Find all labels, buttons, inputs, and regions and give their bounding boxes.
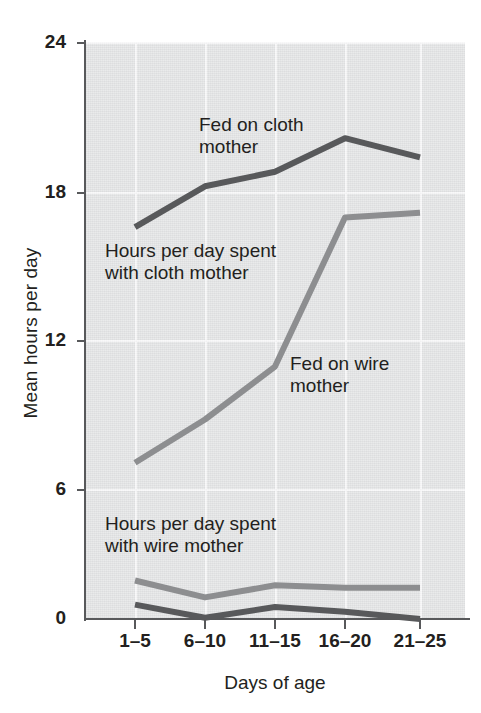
y-tick-label: 24 [20, 32, 66, 51]
y-tick-label: 12 [20, 330, 66, 349]
y-tick-0: 0 [0, 608, 66, 628]
series-line-hours-with-wire-mother [135, 581, 420, 598]
annotation-fed-on-wire-mother: Fed on wire mother [290, 353, 389, 398]
annotation-hours-with-cloth-mother: Hours per day spent with cloth mother [105, 240, 276, 285]
y-tick-6: 6 [0, 479, 66, 499]
y-tick-label: 0 [20, 608, 66, 627]
series-line-fed-on-wire-mother [135, 605, 420, 619]
x-tickmark-16-20 [344, 619, 346, 629]
x-tick-label-21-25: 21–25 [375, 630, 465, 652]
y-tick-label: 6 [20, 479, 66, 498]
y-tick-12: 12 [0, 330, 66, 350]
x-tickmark-1-5 [134, 619, 136, 629]
x-axis-title: Days of age [85, 672, 465, 694]
x-tickmark-11-15 [274, 619, 276, 629]
annotation-fed-on-cloth-mother: Fed on cloth mother [199, 114, 304, 159]
y-tick-label: 18 [20, 182, 66, 201]
annotation-hours-with-wire-mother: Hours per day spent with wire mother [105, 513, 276, 558]
chart-figure: Mean hours per day 24 18 12 6 0 [0, 0, 481, 713]
y-tick-24: 24 [0, 32, 66, 52]
plot-area: Fed on cloth mother Hours per day spent … [85, 42, 465, 619]
y-tick-18: 18 [0, 182, 66, 202]
